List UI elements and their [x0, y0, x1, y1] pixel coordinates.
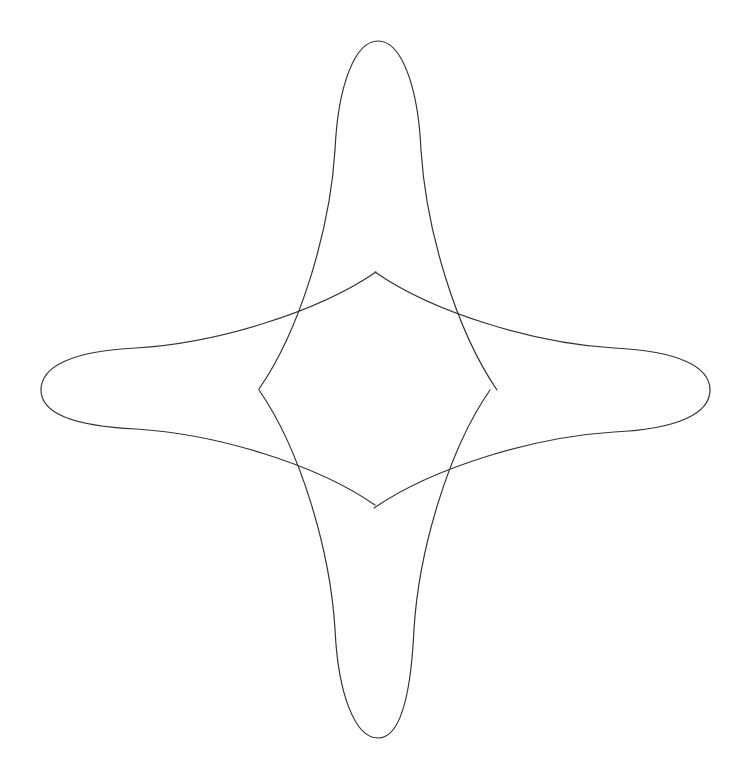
figure-page: 截图序列: [0, 0, 744, 759]
quatrefoil-curve-canvas: [0, 0, 744, 759]
canvas-background: [0, 0, 744, 759]
